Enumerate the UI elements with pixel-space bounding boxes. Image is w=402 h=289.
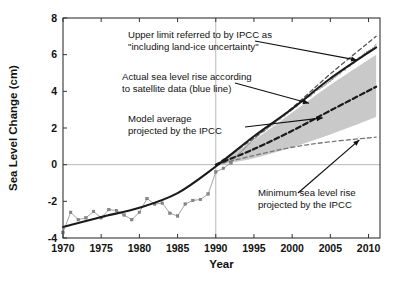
tide-gauge-point bbox=[192, 199, 195, 202]
y-tick-label: 8 bbox=[51, 12, 57, 24]
y-tick-label: 0 bbox=[51, 158, 57, 170]
tide-gauge-point bbox=[123, 214, 126, 217]
tide-gauge-point bbox=[176, 215, 179, 218]
tide-gauge-point bbox=[214, 171, 217, 174]
x-tick-label: 1970 bbox=[51, 242, 75, 254]
x-tick-label: 1985 bbox=[166, 242, 190, 254]
tide-gauge-point bbox=[115, 209, 118, 212]
tide-gauge-point bbox=[222, 167, 225, 170]
x-tick-label: 1995 bbox=[242, 242, 266, 254]
x-tick-label: 2005 bbox=[319, 242, 343, 254]
y-tick-label: -4 bbox=[48, 232, 57, 244]
tide-gauge-point bbox=[77, 218, 80, 221]
x-axis-label: Year bbox=[209, 258, 234, 270]
tide-gauge-point bbox=[85, 217, 88, 220]
y-tick-label: 2 bbox=[51, 122, 57, 134]
x-tick-label: 2010 bbox=[357, 242, 381, 254]
tide-gauge-point bbox=[169, 212, 172, 215]
x-tick-label: 1990 bbox=[204, 242, 228, 254]
annotation-arrow-line bbox=[235, 83, 309, 103]
y-tick-label: 4 bbox=[51, 85, 57, 97]
tide-gauge-point bbox=[138, 211, 141, 214]
x-tick-label: 1975 bbox=[90, 242, 114, 254]
x-tick-label: 1980 bbox=[128, 242, 152, 254]
tide-gauge-point bbox=[184, 203, 187, 206]
tide-gauge-point bbox=[108, 208, 111, 211]
y-axis-label: Sea Level Change (cm) bbox=[7, 65, 19, 191]
annotation-arrow-line bbox=[298, 140, 359, 193]
annotation-arrow-line bbox=[255, 41, 357, 60]
chart-canvas: 197019751980198519901995200020052010-4-2… bbox=[0, 0, 402, 289]
tide-gauge-point bbox=[207, 193, 210, 196]
annotation-text: Minimum sea level rise bbox=[258, 187, 356, 198]
annotation-text: Model average bbox=[128, 113, 191, 124]
tide-gauge-point bbox=[161, 202, 164, 205]
tide-gauge-point bbox=[146, 197, 149, 200]
sea-level-change-chart: 197019751980198519901995200020052010-4-2… bbox=[0, 0, 402, 289]
y-tick-label: 6 bbox=[51, 48, 57, 60]
annotation-text: to satellite data (blue line) bbox=[122, 83, 231, 94]
annotation-text: projected by the IPCC bbox=[128, 125, 222, 136]
y-tick-label: -2 bbox=[48, 195, 57, 207]
tide-gauge-point bbox=[92, 210, 95, 213]
tide-gauge-point bbox=[130, 218, 133, 221]
tide-gauge-point bbox=[69, 211, 72, 214]
annotation-text: projected by the IPCC bbox=[258, 199, 352, 210]
annotation-text: Actual sea level rise according bbox=[122, 71, 252, 82]
annotation-text: "including land-ice uncertainty" bbox=[128, 41, 259, 52]
annotation-text: Upper limit referred to by IPCC as bbox=[128, 29, 272, 40]
x-tick-label: 2000 bbox=[280, 242, 304, 254]
tide-gauge-point bbox=[199, 198, 202, 201]
